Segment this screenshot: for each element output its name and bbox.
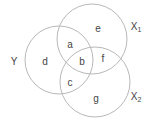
region-label-g: g <box>93 93 99 104</box>
region-label-e: e <box>95 23 101 34</box>
region-label-f: f <box>102 53 105 64</box>
region-label-b: b <box>79 56 85 67</box>
set-label-y: Y <box>11 56 18 67</box>
region-label-d: d <box>42 56 48 67</box>
set-label-x2-subscript: 2 <box>137 96 141 103</box>
set-label-x1-subscript: 1 <box>137 26 141 33</box>
region-label-a: a <box>67 39 73 50</box>
region-label-c: c <box>68 77 73 88</box>
set-label-x1: X1 <box>131 21 142 33</box>
set-label-x2: X2 <box>131 91 142 103</box>
venn-diagram: Y X1 X2 d a e b f c g <box>0 0 154 120</box>
